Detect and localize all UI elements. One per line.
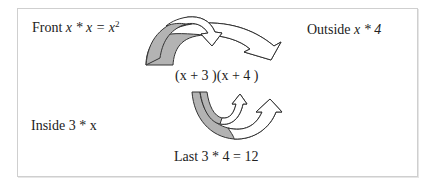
foil-arrows [0, 0, 433, 186]
